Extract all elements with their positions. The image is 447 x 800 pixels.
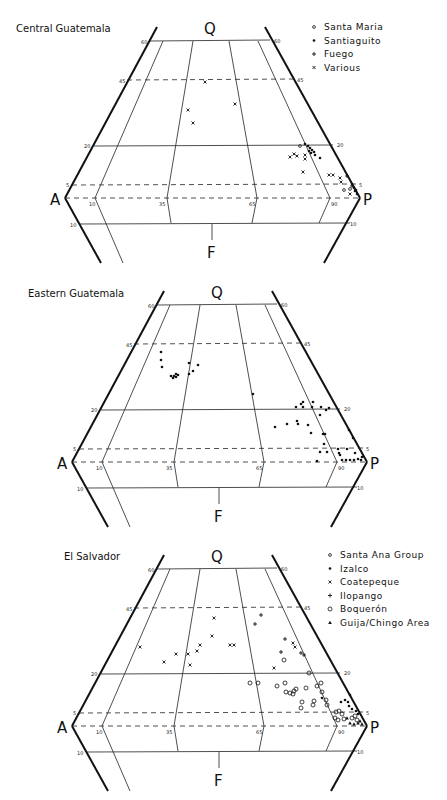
fan-35-upper [174, 569, 200, 726]
data-point [233, 644, 236, 647]
tick-a10: 10 [96, 729, 102, 735]
legend-symbol-dot [313, 39, 316, 42]
line-q60 [150, 40, 270, 41]
tick-q20-right: 20 [344, 670, 350, 676]
tick-f10-left: 10 [77, 486, 83, 492]
data-point [300, 700, 304, 704]
legend-symbol-open-circle [328, 607, 332, 611]
data-point [341, 459, 344, 462]
data-point [356, 193, 359, 196]
line-q5 [79, 712, 365, 713]
tick-q60-right: 60 [274, 38, 280, 44]
data-point [293, 153, 296, 156]
fan-90-upper [265, 305, 337, 462]
data-point [354, 452, 357, 455]
data-points-eastern-guatemala [160, 351, 364, 463]
tick-a90: 90 [338, 465, 344, 471]
tick-q5-left: 5 [73, 446, 76, 452]
data-point [340, 181, 343, 184]
fan-35-lower [167, 198, 171, 223]
fan-35-lower [174, 726, 178, 751]
tick-f10-right: 10 [350, 221, 356, 227]
data-point [284, 690, 288, 694]
data-point [346, 448, 349, 451]
fan-65-upper [236, 569, 264, 726]
tick-a65: 65 [249, 201, 255, 207]
data-point [192, 370, 195, 373]
tick-q45-right: 45 [304, 341, 310, 347]
tick-q60-left: 60 [148, 567, 154, 573]
data-point [353, 714, 357, 718]
data-point [307, 145, 310, 148]
fan-90-upper [265, 569, 337, 726]
data-point [311, 703, 315, 707]
panel-title-central-guatemala: Central Guatemala [16, 23, 111, 34]
tick-a35: 35 [159, 201, 165, 207]
tick-a10: 10 [89, 201, 95, 207]
fan-35-lower [174, 462, 178, 487]
tick-q20-left: 20 [91, 407, 97, 413]
line-q45 [134, 343, 304, 344]
legend-el-salvador: Santa Ana GroupIzalcoCoatepequeIlopangoB… [328, 550, 430, 628]
data-point [349, 694, 352, 697]
data-point [279, 650, 283, 654]
data-point [289, 156, 292, 159]
data-point [252, 393, 255, 396]
data-point [187, 653, 190, 656]
fan-90-lower [326, 726, 337, 751]
data-point [275, 684, 279, 688]
data-point [347, 701, 350, 704]
tick-q60-right: 60 [281, 566, 287, 572]
tick-q5-left: 5 [66, 182, 69, 188]
data-point [323, 443, 326, 446]
data-point [319, 681, 323, 685]
data-point [259, 613, 263, 617]
legend-symbol-plus [328, 594, 332, 598]
line-q20 [101, 673, 340, 674]
data-point [229, 644, 232, 647]
data-point [312, 699, 316, 703]
data-point [304, 154, 307, 157]
data-point [172, 377, 175, 380]
data-point [189, 664, 192, 667]
data-point [296, 155, 299, 158]
data-point [302, 406, 305, 409]
tick-f10-left: 10 [70, 222, 76, 228]
legend-symbol-plus [312, 52, 316, 56]
data-point [349, 193, 352, 196]
data-point [319, 414, 322, 417]
data-point [304, 158, 307, 161]
edge-p-f [331, 726, 367, 791]
legend-symbol-open-circle-small [313, 26, 316, 29]
edge-a-f [72, 726, 108, 791]
vertex-p-label: P [370, 455, 379, 473]
tick-q20-right: 20 [344, 406, 350, 412]
fan-65-upper [229, 41, 257, 198]
data-point [253, 622, 257, 626]
data-point [274, 426, 277, 429]
data-point [314, 154, 317, 157]
data-point [357, 458, 360, 461]
data-point [308, 150, 311, 153]
line-q20 [94, 145, 333, 146]
legend-label: Santiaguito [324, 36, 381, 46]
data-point [175, 373, 178, 376]
data-point [163, 661, 166, 664]
data-point [296, 420, 299, 423]
data-point [310, 152, 313, 155]
fan-90-upper [258, 41, 330, 198]
vertex-q-label: Q [211, 548, 223, 566]
data-point [234, 103, 237, 106]
vertex-q-label: Q [204, 20, 216, 38]
data-point [192, 122, 195, 125]
tick-a35: 35 [166, 729, 172, 735]
line-q5 [72, 184, 358, 185]
data-point [321, 697, 324, 700]
data-point [297, 423, 300, 426]
data-point [282, 658, 286, 662]
data-point [325, 409, 328, 412]
legend-label: Santa Maria [324, 22, 383, 32]
data-point [324, 433, 327, 436]
data-point [342, 717, 346, 721]
data-point [139, 646, 142, 649]
